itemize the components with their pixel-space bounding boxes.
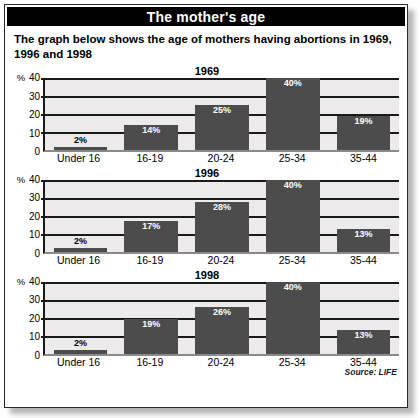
bar[interactable]: 2% bbox=[54, 147, 108, 151]
x-axis-label: 25-34 bbox=[257, 152, 328, 165]
x-axis-label: Under 16 bbox=[43, 254, 114, 267]
x-axis-label: 25-34 bbox=[257, 356, 328, 369]
infographic-panel: The mother's age The graph below shows t… bbox=[4, 4, 408, 408]
bar[interactable]: 40% bbox=[266, 282, 320, 354]
x-axis-label: Under 16 bbox=[43, 152, 114, 165]
y-axis-tick-20: 20 bbox=[29, 314, 40, 324]
x-axis-label: 16-19 bbox=[114, 356, 185, 369]
bar-value-label: 40% bbox=[284, 283, 302, 292]
y-axis-tick-0: 0 bbox=[34, 147, 40, 157]
header-bar: The mother's age bbox=[7, 7, 405, 26]
x-axis: Under 1616-1920-2425-3435-44 bbox=[43, 152, 399, 165]
chart-title: 1998 bbox=[9, 269, 399, 281]
bar-value-label: 13% bbox=[355, 230, 373, 239]
chart-body: % 4030201002%19%26%40%13% bbox=[9, 282, 399, 356]
bar-value-label: 19% bbox=[142, 320, 160, 329]
bar[interactable]: 19% bbox=[124, 319, 178, 353]
bar-slot: 28% bbox=[195, 180, 249, 252]
bar-slot: 40% bbox=[266, 282, 320, 354]
bar[interactable]: 19% bbox=[337, 116, 391, 150]
y-axis-tick-30: 30 bbox=[29, 295, 40, 305]
y-axis-tick-40: % 40 bbox=[17, 277, 40, 287]
x-axis-label: 20-24 bbox=[185, 152, 256, 165]
y-axis-tick-10: 10 bbox=[29, 230, 40, 240]
bar-slot: 13% bbox=[337, 180, 391, 252]
x-axis-label: 20-24 bbox=[185, 254, 256, 267]
y-axis-tick-10: 10 bbox=[29, 332, 40, 342]
bar[interactable]: 40% bbox=[266, 78, 320, 150]
y-axis-tick-10: 10 bbox=[29, 129, 40, 139]
x-axis-label: Under 16 bbox=[43, 356, 114, 369]
bar-slot: 25% bbox=[195, 78, 249, 150]
x-axis-label: 20-24 bbox=[185, 356, 256, 369]
page-title: The mother's age bbox=[147, 10, 266, 24]
chart-1996: 1996% 4030201002%17%28%40%13%Under 1616-… bbox=[5, 167, 407, 267]
y-axis-unit: % bbox=[17, 276, 28, 287]
chart-body: % 4030201002%14%25%40%19% bbox=[9, 78, 399, 152]
y-axis-tick-30: 30 bbox=[29, 193, 40, 203]
bar[interactable]: 25% bbox=[195, 105, 249, 150]
bar[interactable]: 2% bbox=[54, 248, 108, 252]
bar-value-label: 17% bbox=[142, 222, 160, 231]
bar-value-label: 2% bbox=[74, 237, 87, 246]
bar[interactable]: 14% bbox=[124, 125, 178, 150]
bar-group: 2%19%26%40%13% bbox=[45, 282, 399, 354]
x-axis: Under 1616-1920-2425-3435-44 bbox=[43, 254, 399, 267]
bar-slot: 13% bbox=[337, 282, 391, 354]
y-axis-tick-40: % 40 bbox=[17, 175, 40, 185]
bar-slot: 2% bbox=[54, 78, 108, 150]
bar[interactable]: 26% bbox=[195, 307, 249, 354]
bar-slot: 2% bbox=[54, 282, 108, 354]
bar-value-label: 28% bbox=[213, 203, 231, 212]
bar[interactable]: 13% bbox=[337, 330, 391, 353]
x-axis-label: 35-44 bbox=[328, 152, 399, 165]
y-axis-tick-20: 20 bbox=[29, 212, 40, 222]
x-axis-label: 35-44 bbox=[328, 254, 399, 267]
bar[interactable]: 28% bbox=[195, 202, 249, 252]
bar-value-label: 40% bbox=[284, 79, 302, 88]
bar-value-label: 40% bbox=[284, 181, 302, 190]
bar-slot: 19% bbox=[124, 282, 178, 354]
charts-container: 1969% 4030201002%14%25%40%19%Under 1616-… bbox=[5, 65, 407, 368]
chart-title: 1969 bbox=[9, 65, 399, 77]
bar[interactable]: 17% bbox=[124, 221, 178, 252]
y-axis-tick-0: 0 bbox=[34, 249, 40, 259]
y-axis: % 403020100 bbox=[9, 180, 43, 254]
bar-group: 2%14%25%40%19% bbox=[45, 78, 399, 150]
bar-slot: 40% bbox=[266, 78, 320, 150]
plot-area: 2%19%26%40%13% bbox=[43, 282, 399, 356]
bar-value-label: 2% bbox=[74, 136, 87, 145]
bar-value-label: 19% bbox=[355, 117, 373, 126]
bar-value-label: 13% bbox=[355, 331, 373, 340]
chart-body: % 4030201002%17%28%40%13% bbox=[9, 180, 399, 254]
x-axis-label: 16-19 bbox=[114, 152, 185, 165]
bar-value-label: 14% bbox=[142, 126, 160, 135]
chart-1998: 1998% 4030201002%19%26%40%13%Under 1616-… bbox=[5, 269, 407, 369]
bar-slot: 40% bbox=[266, 180, 320, 252]
y-axis: % 403020100 bbox=[9, 282, 43, 356]
bar-slot: 19% bbox=[337, 78, 391, 150]
plot-area: 2%17%28%40%13% bbox=[43, 180, 399, 254]
bar-value-label: 25% bbox=[213, 106, 231, 115]
bar[interactable]: 2% bbox=[54, 350, 108, 354]
chart-title: 1996 bbox=[9, 167, 399, 179]
bar-value-label: 2% bbox=[74, 339, 87, 348]
bar-slot: 2% bbox=[54, 180, 108, 252]
y-axis: % 403020100 bbox=[9, 78, 43, 152]
bar-slot: 14% bbox=[124, 78, 178, 150]
source-credit: Source: LIFE bbox=[5, 367, 407, 377]
bar[interactable]: 13% bbox=[337, 229, 391, 252]
bar-slot: 26% bbox=[195, 282, 249, 354]
bar[interactable]: 40% bbox=[266, 180, 320, 252]
plot-area: 2%14%25%40%19% bbox=[43, 78, 399, 152]
bar-slot: 17% bbox=[124, 180, 178, 252]
chart-1969: 1969% 4030201002%14%25%40%19%Under 1616-… bbox=[5, 65, 407, 165]
bar-value-label: 26% bbox=[213, 308, 231, 317]
y-axis-tick-30: 30 bbox=[29, 92, 40, 102]
y-axis-unit: % bbox=[17, 72, 28, 83]
x-axis-label: 16-19 bbox=[114, 254, 185, 267]
bar-group: 2%17%28%40%13% bbox=[45, 180, 399, 252]
y-axis-unit: % bbox=[17, 174, 28, 185]
y-axis-tick-20: 20 bbox=[29, 110, 40, 120]
x-axis-label: 25-34 bbox=[257, 254, 328, 267]
